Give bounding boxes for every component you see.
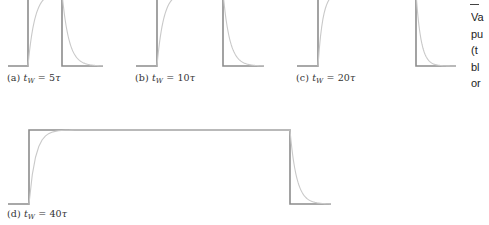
panel-a-input-pulse bbox=[8, 0, 103, 66]
side-caption-line: bl bbox=[471, 59, 489, 76]
panel-b-subscript: W bbox=[156, 77, 163, 85]
panel-a-subscript: W bbox=[27, 77, 34, 85]
panel-c-subscript: W bbox=[316, 77, 323, 85]
panel-d-rc-response bbox=[29, 130, 331, 204]
panel-a-tau: τ bbox=[55, 72, 60, 83]
panel-b-input-pulse bbox=[136, 0, 264, 66]
panel-a-letter: (a) bbox=[7, 72, 24, 83]
panel-d-tau: τ bbox=[62, 208, 67, 219]
panel-c-value: 20 bbox=[338, 72, 350, 83]
panel-d-graph bbox=[8, 130, 331, 204]
panel-b-letter: (b) bbox=[135, 72, 152, 83]
panel-b-graph bbox=[136, 0, 264, 66]
side-caption-line: pu bbox=[471, 26, 489, 43]
panel-d-input-pulse bbox=[8, 130, 331, 204]
panel-a-rc-response bbox=[28, 0, 103, 66]
panel-c-equals: = bbox=[323, 72, 337, 83]
panel-d-subscript: W bbox=[28, 213, 35, 221]
panel-d-letter: (d) bbox=[7, 208, 24, 219]
panel-c-caption: (c) tW = 20τ bbox=[296, 72, 355, 83]
panel-d-equals: = bbox=[35, 208, 49, 219]
panel-b-rc-response bbox=[157, 0, 264, 66]
panel-d-value: 40 bbox=[49, 208, 61, 219]
side-caption-line: (t bbox=[471, 42, 489, 59]
side-caption-text: Va pu (t bl or bbox=[471, 9, 489, 92]
panel-b-equals: = bbox=[163, 72, 177, 83]
panel-c-graph bbox=[297, 0, 456, 66]
panel-b-value: 10 bbox=[177, 72, 189, 83]
side-caption-rule bbox=[470, 4, 479, 5]
panel-a-equals: = bbox=[35, 72, 49, 83]
panel-c-letter: (c) bbox=[296, 72, 312, 83]
panel-d-caption: (d) tW = 40τ bbox=[7, 208, 67, 219]
panel-b-tau: τ bbox=[190, 72, 195, 83]
side-caption-line: Va bbox=[471, 9, 489, 26]
panel-c-rc-response bbox=[318, 0, 456, 66]
panel-b-caption: (b) tW = 10τ bbox=[135, 72, 195, 83]
panel-c-tau: τ bbox=[350, 72, 355, 83]
panel-a-caption: (a) tW = 5τ bbox=[7, 72, 61, 83]
panel-a-graph bbox=[8, 0, 103, 66]
side-caption-line: or bbox=[471, 75, 489, 92]
